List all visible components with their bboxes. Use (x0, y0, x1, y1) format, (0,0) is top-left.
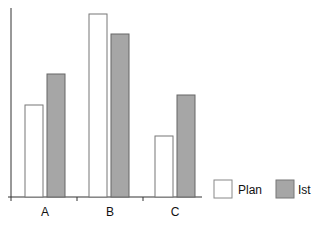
bars-group (25, 14, 195, 197)
legend-swatch-plan (214, 180, 232, 198)
bar-plan-c (155, 136, 173, 197)
category-label-b: B (106, 205, 114, 219)
legend-swatch-ist (276, 180, 294, 198)
legend: Plan Ist (214, 180, 311, 198)
bar-ist-a (47, 74, 65, 197)
x-axis-ticks (11, 197, 143, 201)
bar-ist-b (111, 34, 129, 197)
bar-plan-b (89, 14, 107, 197)
bar-ist-c (177, 95, 195, 197)
category-label-c: C (171, 205, 180, 219)
bar-chart: A B C Plan Ist (0, 0, 317, 230)
legend-label-plan: Plan (238, 183, 262, 197)
bar-plan-a (25, 105, 43, 197)
legend-label-ist: Ist (298, 183, 311, 197)
category-label-a: A (41, 205, 49, 219)
